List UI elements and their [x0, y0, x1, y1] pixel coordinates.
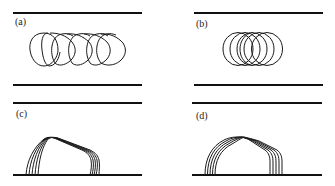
figure-canvas: (a) (b) (c) [0, 0, 335, 186]
panel-c: (c) [13, 103, 142, 175]
panel-a: (a) [13, 13, 142, 85]
panel-a-label: (a) [15, 16, 26, 28]
panel-b-label: (b) [196, 18, 208, 30]
panel-d-label: (d) [196, 110, 208, 122]
loop-trace [97, 34, 126, 65]
loop-trace [42, 33, 60, 66]
panel-b-loops [223, 33, 283, 66]
loop-trace [244, 33, 274, 66]
panel-a-loops [30, 33, 126, 66]
panel-b: (b) [194, 13, 323, 85]
panel-c-arches [26, 137, 99, 175]
panel-c-label: (c) [16, 108, 27, 120]
panel-d: (d) [192, 103, 322, 175]
panel-d-arches [205, 137, 282, 175]
